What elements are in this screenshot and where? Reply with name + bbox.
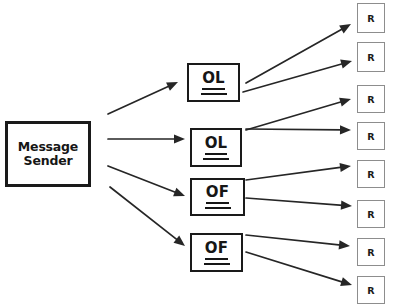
edge-line — [108, 86, 170, 114]
node-label: OF — [205, 241, 228, 260]
node-receiver[interactable]: R — [357, 3, 385, 33]
node-receiver[interactable]: R — [357, 276, 385, 304]
node-receiver[interactable]: R — [357, 160, 385, 188]
sender-label-line-1: Message — [18, 140, 78, 154]
receiver-label: R — [367, 285, 374, 296]
node-receiver[interactable]: R — [357, 42, 385, 72]
receiver-label: R — [367, 247, 374, 258]
edge-arrowhead — [174, 134, 185, 143]
edge-sender-ol2 — [108, 134, 185, 143]
sender-label-line-2: Sender — [24, 154, 73, 168]
edge-ol2-r4 — [246, 125, 351, 134]
edge-ol2-r3 — [246, 98, 351, 130]
node-receiver[interactable]: R — [357, 85, 385, 113]
edge-of1-r6 — [246, 198, 352, 210]
node-label: OL — [202, 71, 225, 90]
edge-line — [110, 187, 178, 240]
receiver-label: R — [367, 52, 374, 63]
edge-line — [246, 102, 342, 130]
edge-of2-r7 — [246, 235, 350, 249]
edge-arrowhead — [173, 188, 185, 197]
receiver-label: R — [367, 169, 374, 180]
edge-arrowhead — [340, 277, 352, 286]
node-of-2[interactable]: OF — [190, 233, 243, 272]
edge-line — [246, 129, 342, 130]
node-underline-rule — [205, 207, 231, 209]
node-label: OF — [206, 185, 229, 204]
edge-line — [108, 166, 177, 193]
edge-arrowhead — [340, 60, 352, 69]
node-receiver[interactable]: R — [357, 122, 385, 150]
edge-line — [246, 198, 343, 205]
edge-sender-ol1 — [108, 82, 178, 114]
edge-sender-of1 — [108, 166, 185, 196]
node-label: OL — [205, 136, 228, 155]
edge-line — [246, 167, 342, 180]
node-underline-rule — [203, 158, 229, 160]
edge-arrowhead — [339, 163, 351, 172]
receiver-label: R — [367, 209, 374, 220]
edge-line — [243, 63, 343, 92]
edge-arrowhead — [339, 240, 350, 249]
node-receiver[interactable]: R — [357, 200, 385, 228]
diagram-canvas: Message Sender OLOLOFOF RRRRRRRR — [0, 0, 406, 306]
node-ol-1[interactable]: OL — [187, 63, 240, 102]
edge-line — [246, 235, 341, 245]
receiver-label: R — [367, 131, 374, 142]
receiver-label: R — [367, 94, 374, 105]
edge-arrowhead — [340, 125, 351, 134]
node-underline-rule — [204, 263, 230, 265]
node-receiver[interactable]: R — [357, 238, 385, 266]
node-ol-2[interactable]: OL — [190, 128, 242, 167]
receiver-label: R — [367, 13, 374, 24]
edge-of1-r5 — [246, 163, 351, 180]
edge-line — [246, 28, 343, 83]
edge-ol1-r1 — [246, 24, 351, 83]
edge-arrowhead — [341, 201, 352, 210]
edge-arrowhead — [174, 236, 185, 246]
node-message-sender[interactable]: Message Sender — [5, 121, 91, 187]
edge-arrowhead — [339, 98, 351, 107]
edge-of2-r8 — [246, 252, 352, 286]
node-underline-rule — [201, 93, 227, 95]
edge-line — [246, 252, 343, 282]
node-of-1[interactable]: OF — [190, 178, 245, 216]
